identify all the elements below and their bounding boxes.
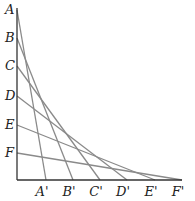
- segment-d: [17, 96, 127, 180]
- y-label-c: C: [5, 58, 15, 73]
- segment-b: [17, 38, 73, 180]
- x-label-e-prime: E': [143, 184, 157, 199]
- x-label-b-prime: B': [61, 184, 75, 199]
- y-label-a: A: [4, 2, 14, 17]
- y-label-d: D: [4, 88, 16, 103]
- segment-f: [17, 153, 182, 180]
- segments-group: [17, 10, 182, 180]
- x-label-c-prime: C': [89, 184, 103, 199]
- y-label-f: F: [4, 145, 15, 160]
- envelope-diagram: ABCDEF A'B'C'D'E'F': [0, 0, 195, 201]
- segment-c: [17, 66, 100, 180]
- x-label-a-prime: A': [35, 184, 49, 199]
- y-label-b: B: [4, 30, 15, 45]
- x-axis-labels: A'B'C'D'E'F': [35, 184, 185, 199]
- x-label-f-prime: F': [171, 184, 185, 199]
- y-label-e: E: [4, 117, 15, 132]
- segment-a: [17, 10, 46, 180]
- x-label-d-prime: D': [115, 184, 130, 199]
- y-axis-labels: ABCDEF: [4, 2, 16, 160]
